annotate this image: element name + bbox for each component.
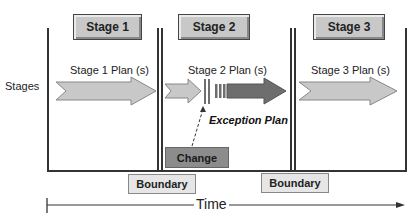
stage-3-plan-arrow (299, 77, 397, 105)
stage-2-title: Stage 2 (193, 20, 236, 34)
boundary-2-line-a (290, 28, 292, 171)
exception-stripe (215, 84, 218, 98)
stage-1-title: Stage 1 (86, 20, 129, 34)
stage-1-left-border (47, 28, 49, 171)
stage-3-title: Stage 3 (328, 20, 371, 34)
stage-2-plan-label: Stage 2 Plan (s) (188, 64, 267, 76)
change-connector-arrowhead (200, 106, 206, 112)
boundary-1-label: Boundary (136, 178, 187, 190)
exception-plan-arrow (227, 78, 286, 104)
boundary-1-line-b (161, 28, 163, 171)
change-box: Change (165, 147, 229, 168)
stages-baseline (47, 170, 407, 172)
exception-stripe (223, 84, 226, 98)
stage-2-plan-arrow-initial (165, 79, 201, 103)
change-label: Change (177, 152, 217, 164)
boundary-box-1: Boundary (128, 174, 196, 194)
stage-1-plan-arrow (56, 77, 156, 105)
stage-1-plan-label: Stage 1 Plan (s) (70, 64, 149, 76)
exception-plan-label: Exception Plan (209, 114, 288, 126)
stage-3-plan-label: Stage 3 Plan (s) (311, 64, 390, 76)
boundary-2-label: Boundary (269, 177, 320, 189)
boundary-1-line-a (157, 28, 159, 171)
time-axis-label: Time (194, 196, 229, 212)
stage-3-right-border (405, 28, 407, 171)
time-axis-arrowhead (396, 202, 405, 208)
boundary-box-2: Boundary (261, 173, 329, 193)
stage-3-title-box: Stage 3 (313, 14, 385, 40)
exception-stripe (219, 84, 222, 98)
stage-2-title-box: Stage 2 (178, 14, 250, 40)
boundary-2-line-b (294, 28, 296, 171)
change-connector-dashed (192, 109, 203, 146)
stages-row-label: Stages (5, 80, 39, 92)
stage-1-title-box: Stage 1 (73, 14, 142, 40)
